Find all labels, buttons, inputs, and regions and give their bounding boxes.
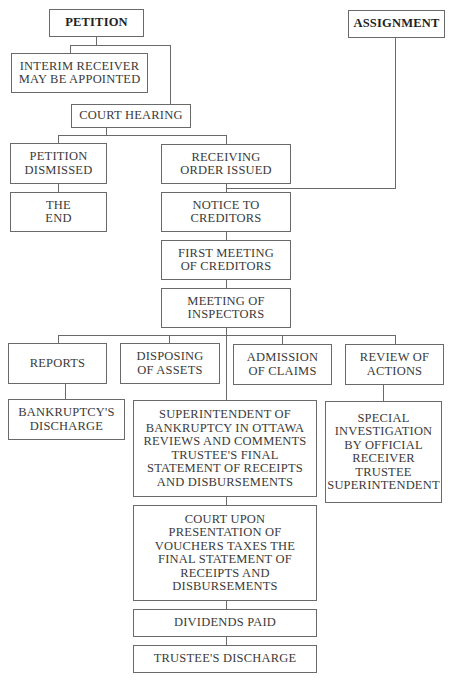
- node-receiving-order: RECEIVING ORDER ISSUED: [161, 144, 291, 184]
- connector: [58, 183, 59, 192]
- assignment-connector: [395, 38, 396, 189]
- node-the-end: THE END: [10, 192, 107, 232]
- node-meeting-inspectors: MEETING OF INSPECTORS: [161, 288, 291, 328]
- connector: [226, 231, 227, 240]
- connector: [226, 496, 227, 505]
- node-interim-receiver: INTERIM RECEIVER MAY BE APPOINTED: [11, 53, 148, 93]
- node-petition-dismissed: PETITION DISMISSED: [10, 143, 107, 184]
- connector: [70, 45, 171, 46]
- connector: [169, 335, 170, 343]
- node-court-taxes: COURT UPON PRESENTATION OF VOUCHERS TAXE…: [133, 505, 317, 601]
- node-assignment: ASSIGNMENT: [348, 10, 445, 38]
- node-superintendent-review: SUPERINTENDENT OF BANKRUPTCY IN OTTAWA R…: [133, 400, 317, 497]
- assignment-connector: [226, 188, 396, 189]
- connector: [58, 135, 227, 136]
- connector: [58, 335, 59, 343]
- connector: [226, 327, 227, 400]
- node-notice-to-creditors: NOTICE TO CREDITORS: [161, 192, 291, 232]
- node-admission-claims: ADMISSION OF CLAIMS: [233, 344, 332, 385]
- node-bankruptcy-discharge: BANKRUPTCY'S DISCHARGE: [8, 399, 125, 440]
- connector: [58, 135, 59, 143]
- connector: [395, 335, 396, 344]
- node-court-hearing: COURT HEARING: [71, 104, 191, 128]
- connector: [226, 636, 227, 645]
- connector: [65, 383, 66, 399]
- node-petition: PETITION: [49, 9, 144, 37]
- node-dividends-paid: DIVIDENDS PAID: [133, 609, 317, 637]
- connector: [226, 279, 227, 288]
- connector: [70, 45, 71, 53]
- node-special-investigation: SPECIAL INVESTIGATION BY OFFICIAL RECEIV…: [325, 401, 442, 503]
- node-review-actions: REVIEW OF ACTIONS: [345, 344, 444, 385]
- connector: [383, 384, 384, 401]
- connector: [96, 36, 97, 45]
- connector: [226, 600, 227, 609]
- node-reports: REPORTS: [8, 343, 107, 384]
- connector: [226, 135, 227, 144]
- node-trustee-discharge: TRUSTEE'S DISCHARGE: [133, 645, 317, 673]
- node-disposing-assets: DISPOSING OF ASSETS: [120, 343, 220, 384]
- node-first-meeting: FIRST MEETING OF CREDITORS: [161, 240, 291, 280]
- connector: [170, 45, 171, 104]
- connector: [282, 335, 283, 344]
- connector: [58, 335, 396, 336]
